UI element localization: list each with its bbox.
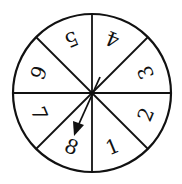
spinner-diagram: 4 3 2 1 8 7 6 5 (0, 0, 182, 184)
section-label-8: 8 (61, 133, 82, 160)
section-label-7: 7 (26, 103, 53, 124)
section-label-3: 3 (132, 62, 159, 83)
section-label-1: 1 (102, 133, 123, 160)
section-label-5: 5 (61, 26, 82, 53)
section-label-6: 6 (25, 62, 52, 83)
section-label-4: 4 (102, 26, 123, 53)
section-label-2: 2 (132, 104, 159, 125)
spinner-arrow-icon (73, 77, 100, 136)
